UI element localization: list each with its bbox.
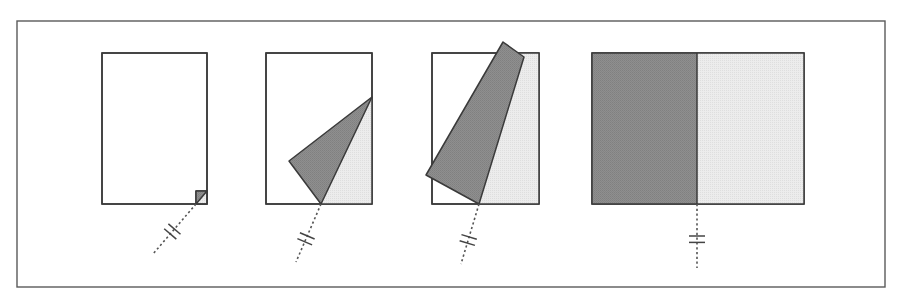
paper-sheet xyxy=(102,53,207,204)
revealed-half-light xyxy=(697,53,804,204)
folding-diagram xyxy=(0,0,902,301)
folded-half-dark xyxy=(592,53,697,204)
